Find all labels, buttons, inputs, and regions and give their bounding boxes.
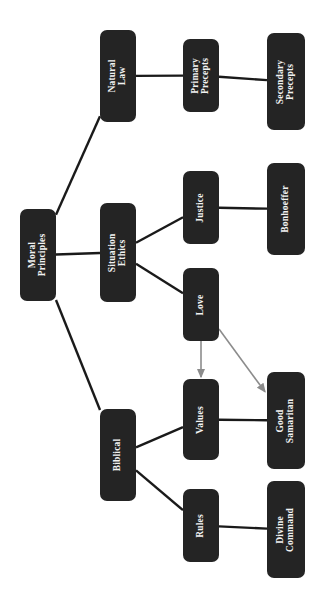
edge-love-to-good_samaritan — [219, 329, 265, 392]
node-natural_law[interactable]: Natural Law — [100, 30, 136, 122]
node-justice[interactable]: Justice — [183, 171, 219, 244]
edge-primary_precepts-to-secondary_precepts — [219, 77, 267, 80]
edge-biblical-to-rules — [136, 470, 183, 510]
node-label-rules: Rules — [196, 508, 206, 544]
node-values[interactable]: Values — [183, 379, 219, 460]
node-moral_principles[interactable]: Moral Principles — [20, 209, 56, 301]
node-label-love: Love — [196, 287, 206, 323]
node-love[interactable]: Love — [183, 268, 219, 341]
node-label-secondary_precepts: Secondary Precepts — [276, 59, 296, 104]
node-label-moral_principles: Moral Principles — [28, 234, 48, 277]
node-label-bonhoeffer: Bonhoeffer — [281, 185, 291, 232]
node-secondary_precepts[interactable]: Secondary Precepts — [267, 33, 305, 130]
node-label-primary_precepts: Primary Precepts — [191, 57, 211, 93]
node-label-values: Values — [196, 402, 206, 438]
diagram-canvas: Moral PrinciplesNatural LawSituation Eth… — [0, 0, 316, 596]
node-label-situation_ethics: Situation Ethics — [108, 233, 128, 272]
edge-values-to-good_samaritan — [219, 420, 267, 421]
edge-moral_principles-to-situation_ethics — [56, 253, 100, 254]
edge-situation_ethics-to-justice — [136, 217, 183, 242]
solid-edges-group — [56, 76, 267, 529]
node-label-biblical: Biblical — [113, 437, 123, 473]
node-label-natural_law: Natural Law — [108, 58, 128, 94]
node-primary_precepts[interactable]: Primary Precepts — [183, 39, 219, 112]
node-biblical[interactable]: Biblical — [100, 409, 136, 501]
node-label-justice: Justice — [196, 190, 206, 226]
edge-moral_principles-to-biblical — [56, 300, 100, 410]
edge-rules-to-divine_command — [219, 526, 267, 528]
node-divine_command[interactable]: Divine Command — [267, 481, 305, 578]
edge-moral_principles-to-natural_law — [56, 116, 100, 214]
edge-biblical-to-values — [136, 427, 183, 447]
node-good_samaritan[interactable]: Good Samaritan — [267, 372, 305, 469]
node-rules[interactable]: Rules — [183, 489, 219, 562]
node-label-good_samaritan: Good Samaritan — [276, 398, 296, 443]
node-label-divine_command: Divine Command — [276, 507, 296, 551]
node-situation_ethics[interactable]: Situation Ethics — [100, 203, 136, 302]
edge-justice-to-bonhoeffer — [219, 208, 267, 209]
edge-situation_ethics-to-love — [136, 264, 183, 293]
node-bonhoeffer[interactable]: Bonhoeffer — [267, 163, 305, 255]
